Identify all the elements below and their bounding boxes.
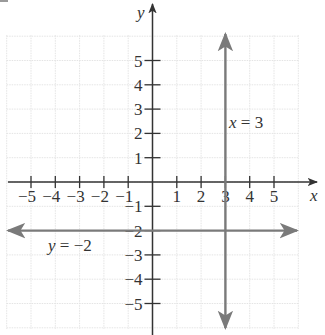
x-tick-label: −5: [18, 187, 36, 206]
y-tick-label: 1: [134, 149, 143, 168]
y-tick-label: 4: [134, 76, 143, 95]
y-tick-label: −3: [124, 246, 142, 265]
y-tick-label: −5: [124, 295, 142, 314]
y-tick-label: 5: [134, 52, 143, 71]
y-tick-label: −4: [124, 270, 143, 289]
x-tick-label: 1: [173, 187, 182, 206]
x-axis-label: x: [309, 186, 318, 205]
label-x-equals-3: x = 3: [228, 113, 263, 132]
label-y-equals-neg2: y = −2: [46, 236, 92, 255]
x-tick-label: −2: [91, 187, 109, 206]
y-axis-label: y: [135, 3, 145, 22]
x-tick-label: −4: [42, 187, 61, 206]
y-tick-label: −1: [124, 197, 142, 216]
y-tick-label: 2: [134, 124, 143, 143]
x-tick-label: 5: [270, 187, 279, 206]
x-tick-label: 4: [245, 187, 254, 206]
y-tick-label: 3: [134, 100, 143, 119]
x-tick-label: −3: [67, 187, 85, 206]
coordinate-plane: −5−4−3−2−112345−5−4−3−2−112345 x y x = 3…: [0, 0, 325, 335]
x-tick-label: 2: [197, 187, 206, 206]
